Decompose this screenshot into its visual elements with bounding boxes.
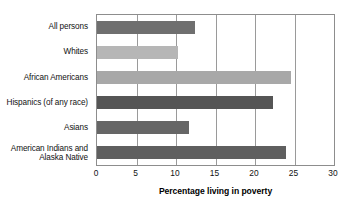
poverty-bar-chart: All persons Whites African Americans His… [0,0,343,215]
category-tick-0: All persons [0,14,92,39]
plot-area [96,14,335,166]
x-axis-title: Percentage living in poverty [96,186,335,196]
x-tick-label: 5 [133,168,138,178]
bar-american-indians [97,146,286,159]
bar-row [97,140,334,165]
category-label: Asians [64,123,88,133]
bar-row [97,65,334,90]
bar-row [97,115,334,140]
category-label: Hispanics (of any race) [7,98,88,108]
bar-row [97,90,334,115]
bar-whites [97,46,178,59]
bar-african-americans [97,71,291,84]
bar-hispanics [97,96,273,109]
category-tick-4: Asians [0,115,92,140]
category-tick-5: American Indians and Alaska Native [0,141,92,166]
x-tick-label: 15 [210,168,219,178]
category-tick-2: African Americans [0,65,92,90]
bar-asians [97,121,189,134]
bar-row [97,40,334,65]
category-label: Whites [64,47,88,57]
category-label: American Indians and Alaska Native [11,144,88,163]
x-tick-label: 0 [94,168,99,178]
bar-row [97,15,334,40]
value-axis: 051015202530 [96,168,335,182]
category-tick-1: Whites [0,39,92,64]
category-axis: All persons Whites African Americans His… [0,14,92,166]
category-label: African Americans [24,73,88,83]
bars-layer [97,15,334,165]
bar-all-persons [97,21,195,34]
category-label: All persons [49,22,88,32]
x-tick-label: 30 [328,168,337,178]
x-tick-label: 10 [170,168,179,178]
category-tick-3: Hispanics (of any race) [0,90,92,115]
x-tick-label: 25 [289,168,298,178]
x-tick-label: 20 [249,168,258,178]
